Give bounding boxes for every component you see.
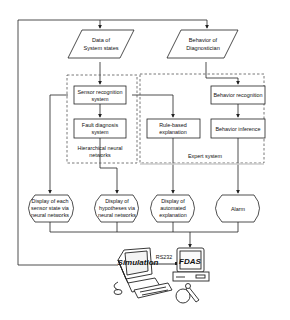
rule-based-box: Rule-based explanation <box>147 119 200 138</box>
display-sensor-state: Display of each sensor state via neural … <box>29 195 74 222</box>
input-diagnostician: Behavior of Diagnostician <box>167 30 238 58</box>
svg-text:neural networks: neural networks <box>31 212 69 218</box>
svg-text:explanation: explanation <box>159 212 187 218</box>
sensor-recognition-box: Sensor recognition system <box>74 86 126 104</box>
svg-text:Display of each: Display of each <box>32 198 69 204</box>
svg-text:Fault diagnosis: Fault diagnosis <box>82 122 119 128</box>
svg-text:System states: System states <box>83 45 118 51</box>
svg-text:Display of: Display of <box>161 198 185 204</box>
svg-text:hypotheses via: hypotheses via <box>99 205 135 211</box>
behavior-inference-box: Behavior inference <box>211 119 265 138</box>
svg-text:Sensor recognition: Sensor recognition <box>78 89 123 95</box>
svg-text:Diagnostician: Diagnostician <box>186 45 220 51</box>
svg-text:neural networks: neural networks <box>98 212 136 218</box>
simulator-label: Simulation <box>118 258 159 267</box>
svg-text:Behavior inference: Behavior inference <box>216 126 261 132</box>
fault-diagnosis-box: Fault diagnosis system <box>74 119 126 138</box>
svg-text:automated: automated <box>160 205 185 211</box>
svg-text:system: system <box>91 129 109 135</box>
svg-text:system: system <box>91 96 109 102</box>
neural-group-label-2: networks <box>89 152 111 158</box>
svg-text:Behavior recognition: Behavior recognition <box>213 92 262 98</box>
rs232-label: RS232 <box>156 254 172 260</box>
display-hypotheses: Display of hypotheses via neural network… <box>95 195 139 222</box>
display-automated-explanation: Display of automated explanation <box>151 195 195 222</box>
fdas-label: FDAS <box>179 257 201 266</box>
input-system-states: Data of System states <box>68 30 134 58</box>
svg-text:Display of: Display of <box>105 198 129 204</box>
svg-text:Behavior of: Behavior of <box>189 37 218 43</box>
expert-group-label: Expert system <box>188 153 223 159</box>
behavior-recognition-box: Behavior recognition <box>211 86 265 104</box>
svg-text:sensor state via: sensor state via <box>31 205 69 211</box>
operator-figure-icon <box>176 284 199 304</box>
display-alarm: Alarm <box>216 195 260 222</box>
svg-text:explanation: explanation <box>159 129 187 135</box>
svg-text:Rule-based: Rule-based <box>159 122 187 128</box>
svg-text:Alarm: Alarm <box>231 206 246 212</box>
svg-text:Data of: Data of <box>92 37 110 43</box>
neural-group-label: Hierarchical neural <box>78 145 123 151</box>
flow-diagram: Data of System states Behavior of Diagno… <box>0 0 290 320</box>
